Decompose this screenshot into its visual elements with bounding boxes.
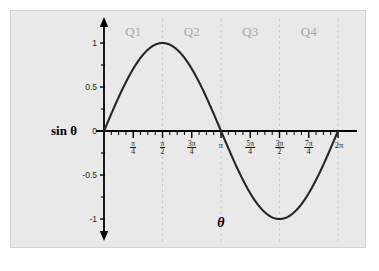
x-tick-label-4: 5π4 [245, 140, 255, 155]
fraction-denominator: 4 [304, 148, 314, 155]
x-tick-label-7: 2π [335, 141, 344, 150]
y-tick-label--1: -1 [89, 214, 97, 224]
quadrant-label-q1: Q1 [125, 24, 141, 40]
quadrant-label-q2: Q2 [184, 24, 200, 40]
y-tick-label--0-5: -0.5 [82, 170, 97, 180]
y-axis-arrow-up [100, 17, 108, 27]
plot-panel: Q1Q2Q3Q4 10.50-0.5-1 π4π23π4π5π43π27π42π… [10, 10, 366, 248]
sine-wave-figure: Q1Q2Q3Q4 10.50-0.5-1 π4π23π4π5π43π27π42π… [0, 0, 379, 271]
y-tick-label-0: 0 [92, 126, 97, 136]
fraction-denominator: 2 [160, 148, 166, 155]
quadrant-label-q4: Q4 [301, 24, 317, 40]
axes-group [96, 17, 357, 241]
fraction-denominator: 4 [245, 148, 255, 155]
quadrant-label-q3: Q3 [242, 24, 258, 40]
x-tick-label-3: π [219, 141, 223, 150]
x-tick-label-6: 7π4 [304, 140, 314, 155]
x-tick-label-1: π2 [160, 140, 166, 155]
x-tick-label-2: 3π4 [187, 140, 197, 155]
y-tick-label-1: 1 [92, 38, 97, 48]
x-tick-label-0: π4 [130, 140, 136, 155]
x-tick-label-5: 3π2 [275, 140, 285, 155]
y-axis-label: sin θ [51, 123, 77, 139]
y-tick-label-0-5: 0.5 [85, 82, 97, 92]
fraction-denominator: 4 [130, 148, 136, 155]
y-axis-arrow-down [100, 231, 108, 241]
fraction-denominator: 4 [187, 148, 197, 155]
x-axis-label: θ [217, 215, 224, 231]
fraction-denominator: 2 [275, 148, 285, 155]
